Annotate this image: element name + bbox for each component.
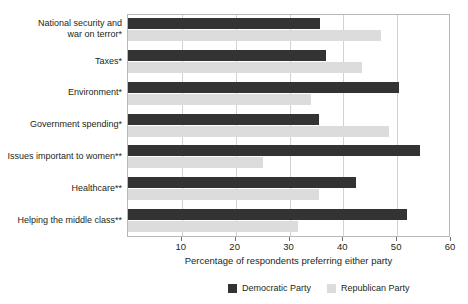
x-axis-tick-label: 50	[381, 241, 411, 253]
bar-group	[128, 206, 449, 238]
x-axis-tick-label: 10	[166, 241, 196, 253]
x-axis-tick-label: 20	[220, 241, 250, 253]
bar-democratic	[128, 82, 399, 93]
y-axis-label-line: National security and	[0, 18, 122, 29]
bar-republican	[128, 221, 298, 232]
bar-republican	[128, 189, 319, 200]
y-axis-label-line: Environment*	[0, 87, 122, 98]
chart-title	[30, 0, 290, 3]
bar-group	[128, 111, 449, 143]
bar-group	[128, 174, 449, 206]
bar-democratic	[128, 18, 320, 29]
y-axis-label-line: Helping the middle class**	[0, 215, 122, 226]
y-axis-label: Government spending*	[0, 119, 122, 130]
bar-group	[128, 15, 449, 47]
legend-item-republican[interactable]: Republican Party	[327, 283, 410, 293]
y-axis-label: Environment*	[0, 87, 122, 98]
x-axis-title: Percentage of respondents preferring eit…	[127, 255, 450, 266]
legend-swatch-icon	[228, 284, 237, 293]
bar-republican	[128, 62, 362, 73]
x-axis-tick-label: 30	[274, 241, 304, 253]
y-axis-label: Issues important to women**	[0, 151, 122, 162]
bar-republican	[128, 30, 381, 41]
x-axis-tick-label: 40	[327, 241, 357, 253]
y-axis-label-line: Issues important to women**	[0, 151, 122, 162]
legend-label: Democratic Party	[242, 283, 311, 293]
y-axis-label: Healthcare**	[0, 183, 122, 194]
x-axis-tick-group: 102030405060	[0, 237, 468, 253]
bar-group	[128, 79, 449, 111]
legend-label: Republican Party	[341, 283, 410, 293]
bar-group	[128, 142, 449, 174]
y-axis-label-group: National security andwar on terror*Taxes…	[0, 14, 122, 237]
bar-democratic	[128, 145, 420, 156]
bar-democratic	[128, 114, 319, 125]
bar-republican	[128, 157, 263, 168]
y-axis-label-line: Healthcare**	[0, 183, 122, 194]
y-axis-label: National security andwar on terror*	[0, 18, 122, 39]
bar-democratic	[128, 209, 407, 220]
legend-item-democratic[interactable]: Democratic Party	[228, 283, 311, 293]
bar-republican	[128, 126, 389, 137]
y-axis-label: Helping the middle class**	[0, 215, 122, 226]
plot-area	[127, 14, 450, 237]
bar-democratic	[128, 50, 326, 61]
chart-legend: Democratic PartyRepublican Party	[228, 283, 410, 293]
y-axis-label-line: Taxes*	[0, 56, 122, 67]
bar-group	[128, 47, 449, 79]
x-axis-tick-label: 60	[435, 241, 465, 253]
legend-swatch-icon	[327, 284, 336, 293]
y-axis-label-line: Government spending*	[0, 119, 122, 130]
bar-democratic	[128, 177, 356, 188]
bar-republican	[128, 94, 311, 105]
y-axis-label-line: war on terror*	[0, 29, 122, 40]
y-axis-label: Taxes*	[0, 56, 122, 67]
